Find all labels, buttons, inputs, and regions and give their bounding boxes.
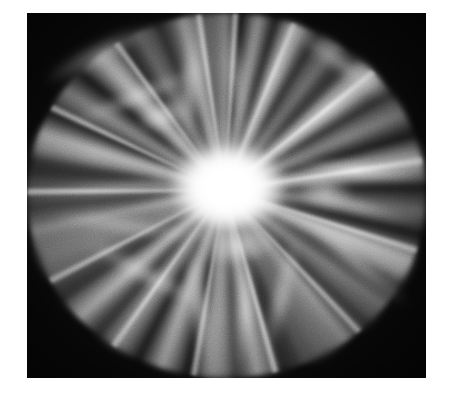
screenshot-canvas: Grayscale photograph of an intense radia… — [0, 0, 452, 404]
streak-bottom-2 — [231, 244, 260, 373]
core-halo-layer — [27, 13, 426, 378]
streak-lower-right — [295, 208, 415, 313]
streak-left — [35, 176, 220, 198]
dark-background-layer — [27, 13, 426, 378]
hotspot-below-core — [203, 225, 276, 268]
edge-falloff-layer — [27, 13, 426, 378]
streak-bottom — [178, 238, 221, 375]
streak-top — [171, 30, 209, 152]
ray-bundle-medium — [27, 13, 426, 378]
light-burst-photo — [27, 13, 426, 378]
ray-bundle-wide — [27, 13, 426, 378]
streak-right — [282, 155, 426, 188]
hotspot-right — [293, 171, 357, 213]
streak-right-2 — [278, 181, 426, 231]
streak-top-2 — [221, 22, 251, 133]
film-grain-layer — [27, 13, 426, 378]
streak-group — [27, 13, 426, 378]
streak-left-2 — [47, 206, 208, 246]
streak-upper-right — [283, 17, 401, 111]
streak-upper-left — [38, 14, 156, 93]
hotspot-upper-left — [132, 93, 195, 139]
streak-lower-left — [78, 231, 212, 316]
streak-bottom-3 — [257, 234, 307, 356]
blown-out-core — [27, 13, 426, 378]
photographic-softness-layer — [27, 13, 426, 378]
streak-upper-left-2 — [63, 60, 210, 135]
ray-bundle-spikes — [27, 13, 426, 378]
